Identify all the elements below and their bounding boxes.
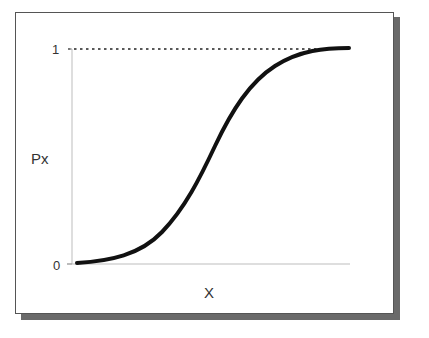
x-axis-label: X <box>204 284 214 301</box>
sigmoid-curve <box>77 48 349 263</box>
sigmoid-plot <box>0 0 429 338</box>
y-axis-label: Px <box>31 150 49 167</box>
y-tick-label-0: 0 <box>53 258 60 273</box>
y-tick-label-1: 1 <box>52 42 59 57</box>
